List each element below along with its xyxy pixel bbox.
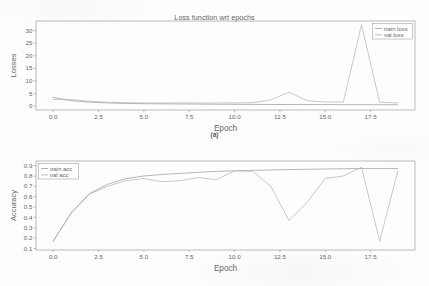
svg-text:0.9: 0.9 [24,162,33,169]
svg-text:0: 0 [29,102,33,109]
svg-text:12.5: 12.5 [274,113,287,120]
svg-text:0.5: 0.5 [24,203,33,210]
svg-text:0.0: 0.0 [49,253,58,260]
svg-text:2.5: 2.5 [94,253,103,260]
svg-text:Losses: Losses [9,53,18,77]
svg-text:0.7: 0.7 [24,182,33,189]
svg-text:15.0: 15.0 [319,113,332,120]
svg-text:train acc: train acc [50,166,72,172]
svg-text:17.5: 17.5 [365,253,378,260]
svg-text:20: 20 [26,52,33,59]
svg-text:12.5: 12.5 [274,253,287,260]
svg-text:10: 10 [26,77,33,84]
svg-text:25: 25 [26,39,33,46]
figure-page: Loss function wrt epochs 0.02.55.07.510.… [0,0,429,286]
svg-text:10.0: 10.0 [229,113,242,120]
svg-text:train loss: train loss [384,26,408,32]
svg-text:0.3: 0.3 [24,224,33,231]
svg-text:val acc: val acc [50,172,68,178]
svg-text:val loss: val loss [384,32,404,38]
figure-panel-loss: Loss function wrt epochs 0.02.55.07.510.… [0,0,429,143]
svg-text:7.5: 7.5 [185,113,194,120]
svg-text:5.0: 5.0 [140,113,149,120]
svg-text:0.8: 0.8 [24,172,33,179]
svg-text:2.5: 2.5 [94,113,103,120]
svg-text:0.0: 0.0 [49,113,58,120]
svg-text:10.0: 10.0 [229,253,242,260]
svg-text:15: 15 [26,64,33,71]
svg-text:0.4: 0.4 [24,214,33,221]
accuracy-chart-plot: 0.02.55.07.510.012.515.017.50.10.20.30.4… [0,143,429,286]
loss-chart-plot: 0.02.55.07.510.012.515.017.5051015202530… [0,0,429,143]
svg-text:15.0: 15.0 [319,253,332,260]
svg-text:0.6: 0.6 [24,193,33,200]
svg-text:5: 5 [29,90,33,97]
svg-text:30: 30 [26,27,33,34]
svg-text:17.5: 17.5 [365,113,378,120]
svg-text:7.5: 7.5 [185,253,194,260]
svg-text:0.1: 0.1 [24,245,33,252]
figure-panel-accuracy: Model accuracy wrt Epoch 0.02.55.07.510.… [0,143,429,286]
svg-text:5.0: 5.0 [140,253,149,260]
svg-text:Epoch: Epoch [214,264,238,273]
svg-text:0.2: 0.2 [24,234,33,241]
svg-text:Accuracy: Accuracy [9,190,18,221]
panel-caption-a: (a) [0,131,429,138]
